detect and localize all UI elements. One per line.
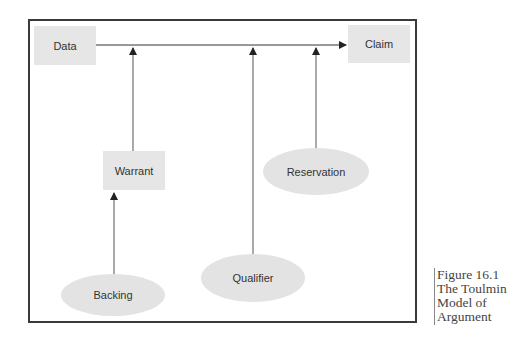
qualifier-label: Qualifier — [233, 272, 274, 284]
backing-node: Backing — [61, 274, 165, 316]
data-node: Data — [34, 26, 96, 65]
warrant-label: Warrant — [115, 165, 154, 177]
caption-title-line-2: Model of — [437, 296, 507, 310]
reservation-label: Reservation — [287, 166, 346, 178]
claim-node: Claim — [348, 25, 410, 63]
data-label: Data — [53, 40, 76, 52]
claim-label: Claim — [365, 38, 393, 50]
backing-label: Backing — [93, 289, 132, 301]
caption-title-line-3: Argument — [437, 310, 507, 324]
figure-caption: Figure 16.1 The Toulmin Model of Argumen… — [437, 268, 507, 324]
caption-title-line-1: The Toulmin — [437, 282, 507, 296]
qualifier-node: Qualifier — [201, 254, 305, 302]
caption-figure-number: Figure 16.1 — [437, 268, 507, 282]
reservation-node: Reservation — [263, 148, 369, 195]
caption-divider — [434, 268, 435, 325]
warrant-node: Warrant — [103, 151, 165, 190]
